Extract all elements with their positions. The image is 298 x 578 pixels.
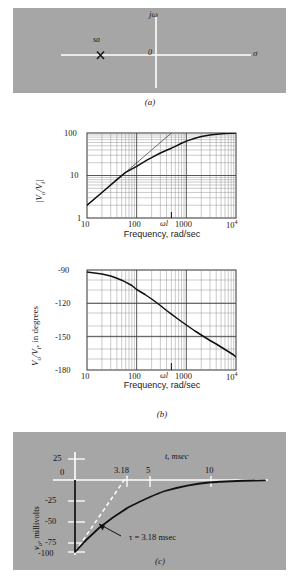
phase-ytick-minus150: -150 <box>55 332 71 342</box>
magnitude-xtick-100: 100 <box>128 219 141 229</box>
magnitude-xtick-10000: 104 <box>226 219 238 230</box>
phase-ytick-minus90: -90 <box>58 265 69 275</box>
time-xtick-318: 3.18 <box>114 465 129 475</box>
tau-annotation-label: τ = 3.18 msec <box>129 532 176 542</box>
time-ytick-0: 0 <box>60 467 64 477</box>
tau-annotation-arrow <box>99 524 121 536</box>
time-x-axis-label: t, msec <box>165 451 189 461</box>
magnitude-y-axis-label: |Vo/Vi| <box>34 179 46 203</box>
magnitude-ytick-100: 100 <box>64 128 77 138</box>
panel-c-caption: (c) <box>140 556 180 566</box>
phase-ytick-minus180: -180 <box>55 365 71 375</box>
phase-xtick-10: 10 <box>81 371 90 381</box>
time-ytick-minus25: -25 <box>45 495 56 505</box>
phase-plot-frame <box>87 270 236 370</box>
time-plot-x-ticks <box>127 476 211 487</box>
origin-label: 0 <box>148 48 152 57</box>
magnitude-ytick-10: 10 <box>70 170 79 180</box>
magnitude-xtick-1000: 1000 <box>175 219 192 229</box>
phase-x-axis-label: Frequency, rad/sec <box>97 380 227 390</box>
magnitude-corner-frequency-label: ωl <box>160 219 168 228</box>
magnitude-xtick-10: 10 <box>81 219 90 229</box>
phase-xtick-10000: 104 <box>226 371 238 382</box>
time-xtick-10: 10 <box>205 465 214 475</box>
phase-corner-frequency-label: ωl <box>160 371 168 380</box>
panel-c-step-response: 25 0 -25 -50 -75 -100 3.18 5 10 t, msec … <box>13 432 286 570</box>
time-xtick-5: 5 <box>146 465 150 475</box>
time-ytick-minus75: -75 <box>45 537 56 547</box>
time-plot-y-ticks <box>68 459 85 552</box>
magnitude-bode-plot: |Vo/Vi| 100 10 1 10 100 1000 104 ωl Freq… <box>0 125 298 235</box>
time-ytick-25: 25 <box>53 453 62 463</box>
time-y-axis-label: vo, millivolts <box>31 506 43 550</box>
imaginary-axis-label: jω <box>149 9 158 19</box>
phase-bode-svg <box>0 262 298 392</box>
panel-b-caption: (b) <box>142 409 182 419</box>
phase-y-axis-label: Vo/Vi, in degrees <box>30 306 42 366</box>
magnitude-x-axis-label: Frequency, rad/sec <box>97 229 227 239</box>
phase-bode-plot: Vo/Vi, in degrees -90 -120 -150 -180 10 … <box>0 262 298 392</box>
panel-a-caption: (a) <box>130 97 170 107</box>
panel-a-pole-zero-diagram: sa jω σ 0 <box>13 8 286 93</box>
phase-ytick-minus120: -120 <box>55 298 71 308</box>
time-ytick-minus50: -50 <box>45 516 56 526</box>
pole-label: sa <box>93 35 100 44</box>
real-axis-label: σ <box>253 48 257 58</box>
